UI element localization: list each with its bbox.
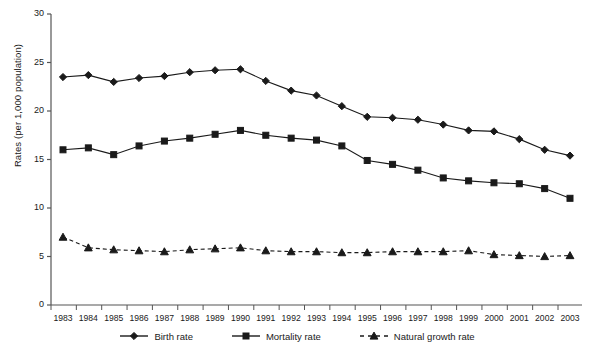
legend-marker-diamond-icon [119,330,149,342]
series-natural-growth-rate [59,233,574,259]
legend-item-birth-rate[interactable]: Birth rate [119,330,193,342]
chart-legend: Birth rateMortality rateNatural growth r… [0,330,594,342]
line-chart-plot [0,0,594,359]
chart-container: Rates (per 1,000 population) 05101520253… [0,0,594,359]
legend-item-mortality-rate[interactable]: Mortality rate [231,330,321,342]
legend-label: Mortality rate [266,331,321,342]
legend-marker-square-icon [231,330,261,342]
legend-item-natural-growth-rate[interactable]: Natural growth rate [359,330,475,342]
legend-label: Natural growth rate [394,331,475,342]
x-axis-ticks [51,305,558,310]
series-mortality-rate [60,127,573,201]
legend-label: Birth rate [154,331,193,342]
legend-marker-triangle-icon [359,330,389,342]
chart-axes [51,14,582,305]
